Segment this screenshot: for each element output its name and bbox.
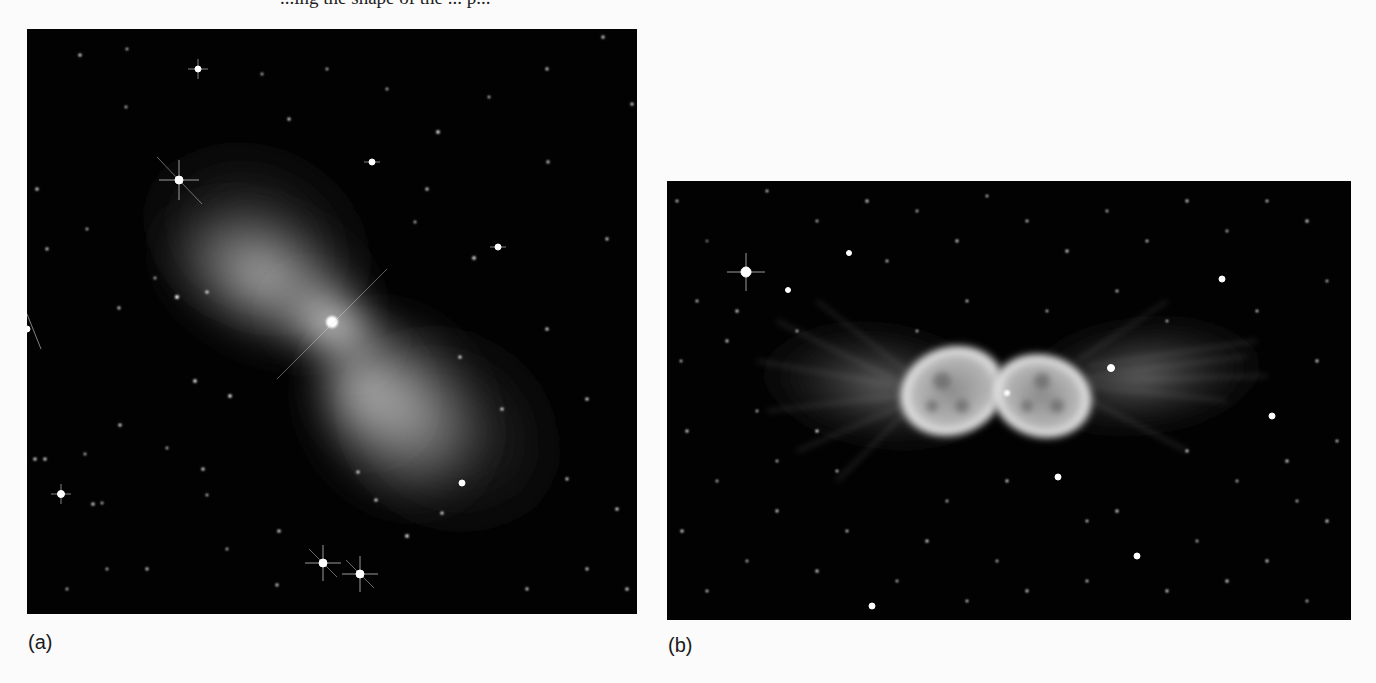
panel-a-label: (a) — [28, 631, 52, 654]
ant-nebula-image — [667, 181, 1351, 620]
figure-panel-a-image — [27, 29, 637, 614]
panel-b-label: (b) — [668, 634, 692, 657]
bowtie-nebula-image — [27, 29, 637, 614]
cut-off-text-line: ...ing the shape of the ... p... — [280, 0, 491, 9]
figure-panel-b-image — [667, 181, 1351, 620]
